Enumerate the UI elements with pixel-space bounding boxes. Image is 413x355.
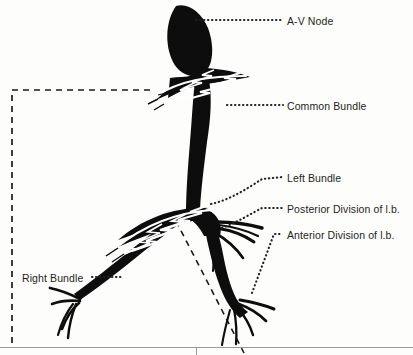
label-common-bundle: Common Bundle: [287, 100, 367, 112]
left-dashed-guide: [12, 90, 150, 345]
label-posterior-division: Posterior Division of l.b.: [287, 203, 400, 215]
leader-left-bundle: [211, 177, 283, 204]
lower-purkinje-fan: [106, 206, 212, 266]
figure-page: A-V Node Common Bundle Left Bundle Poste…: [0, 0, 413, 355]
label-right-bundle: Right Bundle: [22, 272, 83, 284]
leader-anterior-division: [252, 234, 283, 293]
anterior-division: [222, 300, 274, 345]
label-av-node: A-V Node: [287, 15, 333, 27]
conduction-system-diagram: [0, 0, 413, 355]
label-anterior-division: Anterior Division of l.b.: [287, 229, 395, 241]
bottom-rules: [0, 347, 413, 355]
a-v-node: [167, 5, 219, 79]
label-left-bundle: Left Bundle: [287, 172, 341, 184]
